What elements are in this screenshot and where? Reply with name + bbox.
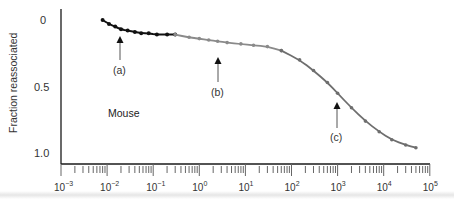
data-point [113,25,117,29]
data-point [239,42,243,46]
data-point [101,18,105,22]
species-label-mouse: Mouse [108,107,140,119]
x-tick-label: 101 [238,180,253,193]
data-point [126,29,130,33]
data-point [216,40,220,44]
data-point [312,69,316,73]
x-tick-label: 104 [377,180,392,193]
reassociation-chart: 10−310−210−1100101102103104105 0 0.5 1.0… [0,0,454,207]
data-point [155,33,159,37]
data-point [336,91,340,95]
x-tick-label: 10−1 [146,180,165,193]
data-point [107,22,111,26]
annotation-a: (a) [113,64,126,76]
data-point [280,49,284,53]
data-point [326,81,330,85]
data-point [119,27,123,31]
data-point [133,30,137,34]
data-point [252,44,256,48]
data-point [298,58,302,62]
data-point [173,33,177,37]
x-axis-ticks [61,164,430,176]
data-point [187,36,191,40]
y-axis-label: Fraction reassociated [7,32,19,133]
data-series [101,18,418,150]
arrow-b [215,57,222,82]
annotation-c: (c) [330,131,342,143]
data-point [207,38,211,42]
data-point [390,138,394,142]
arrow-c [334,102,341,128]
y-tick-1.0: 1.0 [34,147,49,159]
data-point [198,37,202,41]
x-tick-label: 10−2 [100,180,119,193]
data-point [404,143,408,147]
x-tick-label: 102 [285,180,300,193]
x-tick-label: 103 [331,180,346,193]
series-line [281,51,416,148]
data-point [266,45,270,49]
y-tick-0.5: 0.5 [34,81,49,93]
data-point [414,146,418,150]
arrow-a [117,36,124,60]
data-point [139,31,143,35]
x-axis-tick-labels: 10−310−210−1100101102103104105 [54,180,438,193]
data-point [364,119,368,123]
x-tick-label: 10−3 [54,180,73,193]
data-point [225,41,229,45]
data-point [377,130,381,134]
y-tick-0: 0 [40,14,46,26]
annotation-b: (b) [211,86,224,98]
data-point [165,33,169,37]
data-point [350,106,354,110]
data-point [147,31,151,35]
x-tick-label: 100 [192,180,207,193]
x-tick-label: 105 [423,180,438,193]
